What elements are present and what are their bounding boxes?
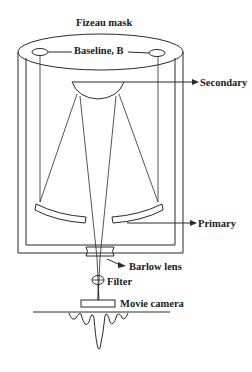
secondary-mirror: [72, 79, 199, 99]
label-baseline: Baseline, B: [74, 45, 124, 56]
fringe-pattern: [33, 312, 170, 349]
label-filter: Filter: [107, 276, 132, 287]
label-secondary: Secondary: [200, 77, 248, 88]
arrow-icon: [190, 220, 197, 226]
aperture-right: [149, 50, 165, 57]
label-primary: Primary: [198, 218, 237, 229]
arrow-icon: [192, 79, 199, 85]
movie-camera: [81, 300, 115, 307]
aperture-beams: [40, 55, 158, 202]
baseline-line-right: [128, 52, 149, 53]
label-barlow-lens: Barlow lens: [129, 261, 182, 272]
barlow-lens: [86, 247, 126, 268]
aperture-left: [32, 49, 48, 56]
fizeau-telescope-diagram: Fizeau mask Baseline, B Secondary Primar…: [0, 0, 252, 372]
arrow-icon: [118, 262, 126, 268]
primary-left: [35, 204, 86, 223]
primary-mirror: [35, 204, 197, 226]
primary-right: [112, 204, 163, 223]
label-fizeau-mask: Fizeau mask: [76, 17, 132, 28]
label-movie-camera: Movie camera: [120, 298, 185, 309]
